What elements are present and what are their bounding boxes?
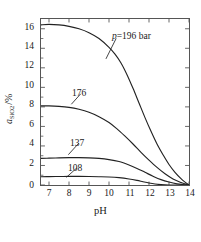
x-tick-label-12: 12 [142,189,158,198]
x-tick-label-14: 14 [182,189,198,198]
y-tick-label-16: 16 [12,23,34,32]
annotation-p196-value: =196 bar [117,31,151,41]
y-axis-symbol: a [3,119,14,124]
y-tick-label-6: 6 [12,120,34,129]
chart-figure: 16 14 12 10 8 6 4 2 0 7 8 9 10 11 12 13 … [0,0,201,242]
x-axis-title: pH [0,205,201,216]
data-curves-group [41,24,189,185]
x-tick-label-9: 9 [81,189,97,198]
annotation-176: 176 [72,89,86,99]
curve-176 [41,106,189,185]
y-tick-label-14: 14 [12,42,34,51]
y-tick-label-12: 12 [12,61,34,70]
plot-area [40,18,190,186]
y-axis-title: aSiO2 /% [3,79,15,139]
annotation-137: 137 [70,139,84,149]
curves-svg [41,19,189,185]
y-axis-unit: /% [3,94,14,105]
y-axis-subscript: SiO [8,109,15,119]
x-tick-label-8: 8 [61,189,77,198]
leader-line-196 [106,39,116,59]
y-tick-label-8: 8 [12,100,34,109]
curve-108 [41,176,189,185]
annotation-p196: p=196 bar [112,32,151,42]
x-tick-label-10: 10 [101,189,117,198]
y-tick-label-10: 10 [12,81,34,90]
x-tick-label-7: 7 [41,189,57,198]
x-tick-label-13: 13 [162,189,178,198]
x-tick-label-11: 11 [122,189,138,198]
y-tick-label-2: 2 [12,159,34,168]
y-tick-label-4: 4 [12,139,34,148]
y-tick-label-0: 0 [12,181,34,190]
y-axis-subscript-2: 2 [8,106,15,109]
annotation-108: 108 [68,164,82,174]
